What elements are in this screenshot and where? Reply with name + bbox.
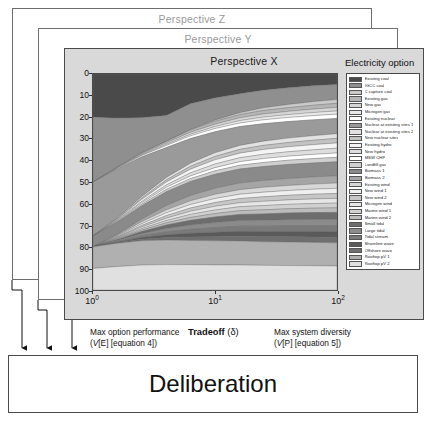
legend-label: Microgen gas (365, 109, 391, 115)
legend-swatch (349, 215, 362, 220)
legend-box: Existing coalIGCC coalC capture coalExis… (346, 73, 420, 270)
legend-item[interactable]: IGCC coal (349, 83, 417, 90)
x-axis-right-line2: (V[P] [equation 5]) (274, 338, 351, 349)
legend-label: Biomass 2 (365, 175, 385, 181)
legend-swatch (349, 136, 362, 141)
legend-swatch (349, 116, 362, 121)
area-band (93, 240, 337, 268)
legend-swatch (349, 129, 362, 134)
legend-swatch (349, 248, 362, 253)
legend: Electricity option Existing coalIGCC coa… (346, 73, 420, 270)
legend-item[interactable]: New hydro (349, 149, 417, 156)
legend-swatch (349, 77, 362, 82)
legend-swatch (349, 255, 362, 260)
legend-item[interactable]: Tidal stream (349, 234, 417, 241)
legend-swatch (349, 143, 362, 148)
legend-item[interactable]: Existing nuclear (349, 116, 417, 123)
legend-label: Rooftop pV 1 (365, 254, 390, 260)
x-axis-left-caption: Max option performance (V[E] [equation 4… (90, 327, 179, 349)
legend-label: New wind 2 (365, 195, 387, 201)
perspective-z-caption: Perspective Z (13, 13, 371, 25)
legend-swatch (349, 182, 362, 187)
legend-swatch (349, 169, 362, 174)
x-axis-tick-mark (92, 291, 93, 294)
legend-label: Microgen wind (365, 201, 393, 207)
chart-area: Portfolio composition (%) 01020304050607… (92, 73, 338, 291)
x-axis-center-caption: Tradeoff (δ) (188, 327, 239, 337)
legend-label: New hydro (365, 149, 386, 155)
legend-label: Existing wind (365, 182, 390, 188)
legend-item[interactable]: Small tidal (349, 221, 417, 228)
y-axis-tick-label: 10 (80, 90, 89, 100)
legend-label: Shoreline wave (365, 241, 394, 247)
legend-swatch (349, 228, 362, 233)
legend-item[interactable]: Microgen gas (349, 109, 417, 116)
legend-label: Biomass 1 (365, 168, 385, 174)
y-axis-tick-label: 70 (80, 221, 89, 231)
legend-label: Rooftop pV 2 (365, 261, 390, 267)
legend-item[interactable]: Large tidal (349, 228, 417, 235)
legend-swatch (349, 235, 362, 240)
legend-item[interactable]: Nuclear at existing sites 2 (349, 129, 417, 136)
y-axis-tick-label: 90 (80, 264, 89, 274)
legend-item[interactable]: Shoreline wave (349, 241, 417, 248)
legend-label: New wind 1 (365, 188, 387, 194)
legend-item[interactable]: New nuclear sites (349, 135, 417, 142)
legend-item[interactable]: Biomass 2 (349, 175, 417, 182)
legend-swatch (349, 103, 362, 108)
legend-label: New nuclear sites (365, 135, 399, 141)
legend-swatch (349, 156, 362, 161)
legend-item[interactable]: Offshore wave (349, 247, 417, 254)
legend-label: Large tidal (365, 228, 385, 234)
legend-item[interactable]: Nuclear at existing sites 1 (349, 122, 417, 129)
legend-swatch (349, 149, 362, 154)
legend-item[interactable]: Existing coal (349, 76, 417, 83)
legend-label: Small tidal (365, 221, 385, 227)
legend-swatch (349, 195, 362, 200)
legend-item[interactable]: Marine wind 2 (349, 214, 417, 221)
y-axis-tick-label: 40 (80, 155, 89, 165)
legend-item[interactable]: Marine wind 1 (349, 208, 417, 215)
x-axis-left-line1: Max option performance (90, 327, 179, 338)
legend-item[interactable]: Existing wind (349, 182, 417, 189)
stacked-area-plot (92, 73, 338, 291)
x-axis-right-caption: Max system diversity (V[P] [equation 5]) (274, 327, 351, 349)
perspective-panel-x[interactable]: Perspective X Portfolio composition (%) … (64, 48, 424, 320)
legend-item[interactable]: New wind 1 (349, 188, 417, 195)
area-series-svg (93, 74, 337, 290)
area-band (93, 265, 337, 290)
legend-item[interactable]: C capture coal (349, 89, 417, 96)
x-axis-tick-label: 102 (331, 294, 345, 306)
legend-item[interactable]: Existing gas (349, 96, 417, 103)
legend-item[interactable]: Rooftop pV 1 (349, 254, 417, 261)
legend-label: IGCC coal (365, 83, 385, 89)
y-axis-tick-label: 30 (80, 133, 89, 143)
legend-label: Landfill gas (365, 162, 387, 168)
legend-swatch (349, 90, 362, 95)
x-axis-tick-label: 101 (208, 294, 222, 306)
x-axis-tick-mark (338, 291, 339, 294)
legend-item[interactable]: Biomass 1 (349, 168, 417, 175)
perspective-y-caption: Perspective Y (39, 33, 397, 45)
legend-label: Offshore wave (365, 248, 393, 254)
deliberation-box[interactable]: Deliberation (8, 355, 418, 413)
legend-label: Existing gas (365, 96, 388, 102)
x-axis-right-line1: Max system diversity (274, 327, 351, 338)
legend-swatch (349, 202, 362, 207)
legend-label: Marine wind 2 (365, 215, 392, 221)
legend-item[interactable]: New gas (349, 102, 417, 109)
legend-item[interactable]: New wind 2 (349, 195, 417, 202)
legend-item[interactable]: Microgen wind (349, 201, 417, 208)
legend-label: C capture coal (365, 89, 393, 95)
legend-item[interactable]: Landfill gas (349, 162, 417, 169)
legend-item[interactable]: Existing hydro (349, 142, 417, 149)
legend-item[interactable]: Rooftop pV 2 (349, 261, 417, 268)
legend-swatch (349, 110, 362, 115)
x-axis-tick-mark (215, 291, 216, 294)
legend-label: Existing nuclear (365, 116, 395, 122)
y-axis-tick-label: 60 (80, 199, 89, 209)
legend-item[interactable]: MSW CHP (349, 155, 417, 162)
legend-swatch (349, 83, 362, 88)
legend-label: Existing coal (365, 76, 389, 82)
legend-swatch (349, 222, 362, 227)
